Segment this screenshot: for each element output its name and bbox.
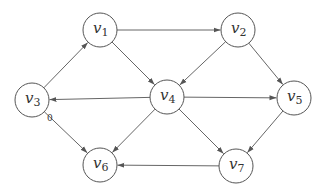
node-v1: v1 <box>83 13 117 47</box>
edge-v2-to-v5 <box>249 43 283 84</box>
edge-v4-to-v7 <box>179 109 224 154</box>
edge-v4-to-v6 <box>112 109 155 152</box>
node-v7: v7 <box>219 149 253 183</box>
node-v5: v5 <box>277 81 311 115</box>
edge-v5-to-v7 <box>247 111 283 153</box>
edge-v2-to-v4 <box>180 42 226 85</box>
edge-v4-to-v5 <box>184 97 277 98</box>
node-v3: v3 <box>15 83 49 117</box>
edge-v3-to-v1 <box>44 43 88 88</box>
edge-weight-label: 0 <box>47 113 53 123</box>
node-v6: v6 <box>83 148 117 182</box>
edge-v1-to-v4 <box>112 42 155 85</box>
edge-labels-layer: 0 <box>47 113 53 123</box>
graph-diagram: v1v2v3v4v5v6v7 0 <box>0 0 332 193</box>
edge-v7-to-v6 <box>117 165 219 166</box>
node-v4: v4 <box>150 80 184 114</box>
node-v2: v2 <box>221 13 255 47</box>
edge-v4-to-v3 <box>49 97 150 99</box>
